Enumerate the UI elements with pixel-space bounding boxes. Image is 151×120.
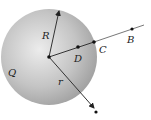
label-r-cap: R	[41, 30, 50, 41]
point-c	[92, 40, 96, 44]
sphere-diagram: R D C B Q r	[0, 0, 151, 120]
center-point	[47, 55, 51, 59]
point-r-end	[94, 110, 97, 113]
label-c: C	[99, 44, 107, 55]
ray-outside	[94, 25, 144, 42]
label-d: D	[73, 53, 82, 64]
label-q: Q	[8, 67, 16, 78]
label-b: B	[126, 34, 134, 45]
point-d	[76, 45, 80, 49]
point-b	[130, 27, 133, 30]
